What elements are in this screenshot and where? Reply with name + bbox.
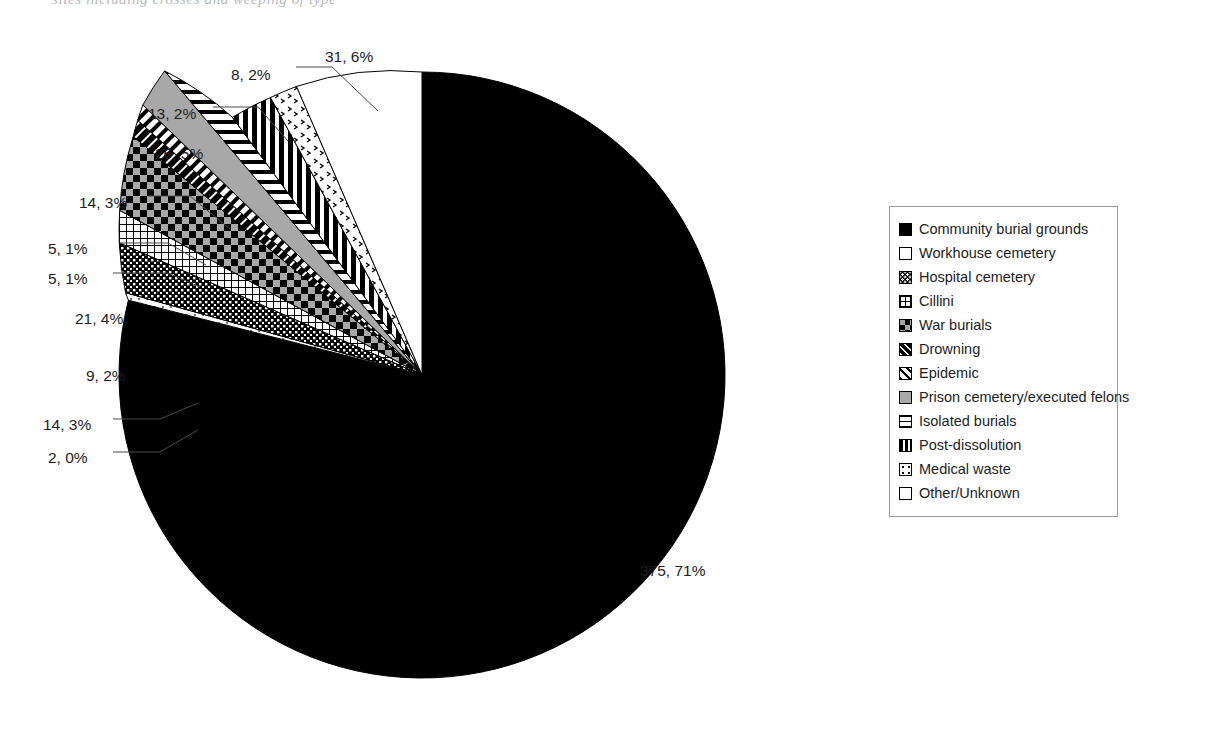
legend-swatch-solid-grey-icon: [899, 391, 912, 404]
legend-item-war-burials[interactable]: War burials: [899, 313, 1110, 337]
pie-label-hospital: 14, 3%: [43, 416, 91, 433]
chart-legend: Community burial grounds Workhouse cemet…: [889, 206, 1118, 517]
legend-label: Cillini: [919, 294, 954, 309]
legend-label: Drowning: [919, 342, 980, 357]
legend-swatch-sparse-marks-icon: [899, 463, 912, 476]
legend-swatch-diagonal-stripes-icon: [899, 367, 912, 380]
pie-label-workhouse: 2, 0%: [48, 449, 88, 466]
legend-label: Workhouse cemetery: [919, 246, 1056, 261]
legend-swatch-dense-dots-icon: [899, 271, 912, 284]
legend-swatch-dark-diagonal-hatch-icon: [899, 343, 912, 356]
pie-label-other-unknown: 31, 6%: [325, 48, 373, 65]
legend-item-community-burial-grounds[interactable]: Community burial grounds: [899, 217, 1110, 241]
pie-label-epidemic: 5, 1%: [48, 240, 88, 257]
legend-item-other-unknown[interactable]: Other/Unknown: [899, 481, 1110, 505]
pie-label-war-burials: 21, 4%: [75, 310, 123, 327]
pie-label-post-dissolution: 13, 2%: [148, 105, 196, 122]
legend-label: War burials: [919, 318, 992, 333]
legend-swatch-horizontal-lines-icon: [899, 415, 912, 428]
legend-swatch-fine-grid-icon: [899, 295, 912, 308]
pie-chart-svg: 31, 6% 8, 2% 13, 2% 26, 5% 14, 3% 5, 1% …: [0, 0, 900, 729]
legend-item-workhouse-cemetery[interactable]: Workhouse cemetery: [899, 241, 1110, 265]
pie-label-drowning: 5, 1%: [48, 270, 88, 287]
legend-swatch-checkerboard-icon: [899, 319, 912, 332]
pie-slices: [119, 71, 725, 678]
legend-item-prison-cemetery[interactable]: Prison cemetery/executed felons: [899, 385, 1110, 409]
pie-label-medical-waste: 8, 2%: [231, 66, 271, 83]
legend-item-isolated-burials[interactable]: Isolated burials: [899, 409, 1110, 433]
legend-label: Epidemic: [919, 366, 979, 381]
legend-item-post-dissolution[interactable]: Post-dissolution: [899, 433, 1110, 457]
pie-label-prison: 14, 3%: [79, 194, 127, 211]
pie-label-cillini: 9, 2%: [86, 367, 126, 384]
legend-swatch-solid-black-icon: [899, 223, 912, 236]
legend-item-drowning[interactable]: Drowning: [899, 337, 1110, 361]
pie-label-isolated-burials: 26, 5%: [155, 145, 203, 162]
legend-swatch-vertical-bars-icon: [899, 439, 912, 452]
pie-chart-figure: 31, 6% 8, 2% 13, 2% 26, 5% 14, 3% 5, 1% …: [0, 0, 900, 729]
legend-item-epidemic[interactable]: Epidemic: [899, 361, 1110, 385]
legend-label: Prison cemetery/executed felons: [919, 390, 1129, 405]
legend-swatch-plain-white-icon: [899, 487, 912, 500]
legend-item-hospital-cemetery[interactable]: Hospital cemetery: [899, 265, 1110, 289]
legend-label: Post-dissolution: [919, 438, 1021, 453]
pie-label-community: 375, 71%: [640, 562, 706, 579]
legend-swatch-white-icon: [899, 247, 912, 260]
legend-label: Medical waste: [919, 462, 1011, 477]
legend-label: Other/Unknown: [919, 486, 1020, 501]
legend-label: Isolated burials: [919, 414, 1017, 429]
legend-item-cillini[interactable]: Cillini: [899, 289, 1110, 313]
legend-label: Hospital cemetery: [919, 270, 1035, 285]
legend-label: Community burial grounds: [919, 222, 1088, 237]
legend-item-medical-waste[interactable]: Medical waste: [899, 457, 1110, 481]
